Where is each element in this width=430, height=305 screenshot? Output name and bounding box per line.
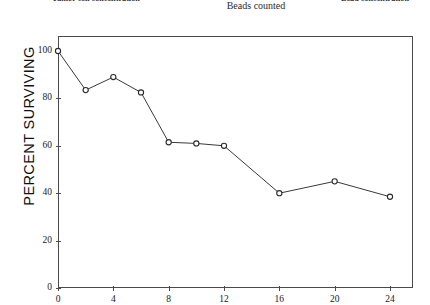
y-tick-label: 60 [18, 140, 52, 150]
x-tick-mark [390, 286, 391, 291]
x-tick-mark [279, 286, 280, 291]
x-tick-mark [58, 286, 59, 291]
survival-line-chart: PERCENT SURVIVING 020406080100 048121620… [0, 0, 430, 305]
x-tick-label: 20 [320, 294, 350, 304]
y-tick-mark [56, 146, 61, 147]
y-tick-label: 0 [18, 282, 52, 292]
x-tick-label: 16 [264, 294, 294, 304]
x-tick-label: 0 [43, 294, 73, 304]
x-tick-label: 12 [209, 294, 239, 304]
x-tick-label: 8 [154, 294, 184, 304]
y-tick-label: 20 [18, 235, 52, 245]
y-tick-mark [56, 51, 61, 52]
y-tick-label: 40 [18, 187, 52, 197]
x-tick-mark [113, 286, 114, 291]
x-tick-label: 24 [375, 294, 405, 304]
y-tick-mark [56, 193, 61, 194]
x-tick-mark [224, 286, 225, 291]
x-tick-mark [335, 286, 336, 291]
y-tick-mark [56, 98, 61, 99]
x-tick-label: 4 [98, 294, 128, 304]
plot-frame [58, 36, 413, 288]
x-tick-mark [169, 286, 170, 291]
y-tick-mark [56, 241, 61, 242]
y-tick-label: 80 [18, 92, 52, 102]
y-tick-label: 100 [18, 45, 52, 55]
